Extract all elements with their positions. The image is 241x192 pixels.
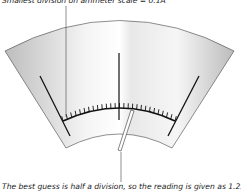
ammeter-diagram: [0, 0, 241, 192]
bottom-caption: The best guess is half a division, so th…: [2, 182, 241, 191]
